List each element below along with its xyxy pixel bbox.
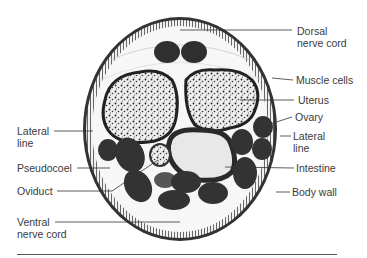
oviduct [150, 144, 170, 166]
label-dorsal-nerve-cord: Dorsal nerve cord [297, 25, 347, 49]
label-ventral-nerve-cord: Ventral nerve cord [17, 216, 67, 240]
label-line: Dorsal [297, 25, 347, 37]
label-intestine: Intestine [296, 162, 336, 174]
label-lateral-line-left: Lateral line [17, 125, 49, 149]
label-body-wall: Body wall [292, 186, 337, 198]
label-muscle-cells: Muscle cells [296, 74, 353, 86]
label-line: Lateral [293, 130, 325, 142]
label-line: line [17, 137, 49, 149]
label-line: Lateral [17, 125, 49, 137]
label-line: nerve cord [17, 228, 67, 240]
divider-rule [17, 254, 337, 255]
label-line: Ventral [17, 216, 67, 228]
label-ovary: Ovary [295, 111, 323, 123]
label-lateral-line-right: Lateral line [293, 130, 325, 154]
label-line: line [293, 142, 325, 154]
label-line: nerve cord [297, 37, 347, 49]
label-uterus: Uterus [298, 94, 329, 106]
label-oviduct: Oviduct [17, 185, 53, 197]
label-pseudocoel: Pseudocoel [17, 162, 72, 174]
